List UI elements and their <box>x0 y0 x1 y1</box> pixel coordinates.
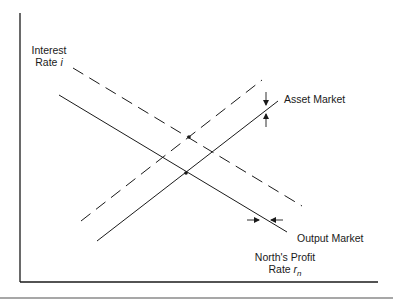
x-axis-label-line2: Rate rn <box>245 263 325 280</box>
x-axis-label-line1: North's Profit <box>245 251 325 263</box>
asset-market-shifted-curve <box>81 80 262 221</box>
y-axis-label-line2: Rate i <box>28 56 70 68</box>
equilibrium-original-dot <box>184 171 188 175</box>
x-axis-label: North's Profit Rate rn <box>245 251 325 280</box>
output-market-curve <box>59 95 287 232</box>
asset-market-label: Asset Market <box>284 93 345 105</box>
y-axis-symbol: i <box>60 56 62 68</box>
x-axis-subscript: n <box>297 269 301 278</box>
y-axis-label: Interest Rate i <box>28 44 70 68</box>
output-market-label: Output Market <box>297 232 364 244</box>
equilibrium-shifted-dot <box>187 135 191 139</box>
y-axis-label-line1: Interest <box>28 44 70 56</box>
